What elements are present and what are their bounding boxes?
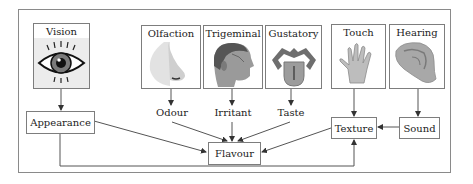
node-texture: Texture bbox=[331, 117, 377, 139]
sense-box-gustatory: Gustatory bbox=[265, 25, 322, 89]
sense-box-trigeminal: Trigeminal bbox=[203, 25, 263, 89]
sense-box-touch: Touch bbox=[331, 24, 386, 89]
sense-label-trigeminal: Trigeminal bbox=[204, 28, 262, 40]
sense-label-touch: Touch bbox=[332, 27, 385, 39]
sense-label-olfaction: Olfaction bbox=[142, 28, 200, 40]
sense-label-vision: Vision bbox=[34, 26, 89, 38]
hand-icon bbox=[332, 39, 385, 88]
tongue-icon bbox=[266, 40, 321, 88]
eye-icon bbox=[34, 38, 89, 88]
sense-label-hearing: Hearing bbox=[390, 27, 444, 39]
sense-box-hearing: Hearing bbox=[389, 24, 445, 89]
node-flavour: Flavour bbox=[208, 142, 261, 165]
node-appearance: Appearance bbox=[26, 111, 95, 134]
label-irritant: Irritant bbox=[213, 107, 253, 119]
label-odour: Odour bbox=[154, 107, 190, 119]
sense-label-gustatory: Gustatory bbox=[266, 28, 321, 40]
nose-icon bbox=[142, 40, 200, 88]
head-icon bbox=[204, 40, 262, 88]
sense-box-olfaction: Olfaction bbox=[141, 25, 201, 89]
label-taste: Taste bbox=[275, 107, 307, 119]
node-sound: Sound bbox=[399, 117, 440, 139]
sense-box-vision: Vision bbox=[33, 23, 90, 89]
ear-icon bbox=[390, 39, 444, 88]
